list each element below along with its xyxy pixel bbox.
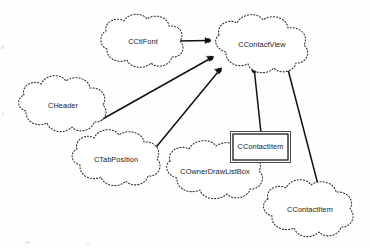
node-label-ccontactitem-box: CContactItem — [238, 142, 284, 151]
class-relationship-diagram: CCtlFont CContactView CHeader CTabPositi… — [0, 0, 371, 248]
node-ccontactitem-box[interactable]: CContactItem — [231, 132, 291, 163]
node-ctabposition[interactable]: CTabPosition — [72, 130, 160, 186]
node-label-cownerdrawlistbox: COwnerDrawListBox — [180, 167, 250, 176]
edge-ctabposition-to-ccontactview — [155, 68, 222, 149]
diagram-canvas: CCtlFont CContactView CHeader CTabPositi… — [0, 0, 371, 248]
node-label-cheader: CHeader — [48, 101, 78, 110]
node-label-ccontactview: CContactView — [238, 40, 286, 49]
node-label-ctabposition: CTabPosition — [94, 155, 138, 164]
node-label-ccontactitem-cloud: CContactItem — [287, 205, 333, 214]
node-cheader[interactable]: CHeader — [19, 76, 106, 132]
edge-ccontactitem-box-to-ccontactview — [252, 68, 261, 133]
edge-ccontactitem-cloud-to-ccontactview — [285, 64, 321, 196]
node-label-cctlfont: CCtlFont — [128, 37, 158, 46]
node-cctlfont[interactable]: CCtlFont — [101, 14, 183, 67]
node-ccontactitem-cloud[interactable]: CContactItem — [263, 180, 353, 237]
node-ccontactview[interactable]: CContactView — [216, 15, 308, 73]
